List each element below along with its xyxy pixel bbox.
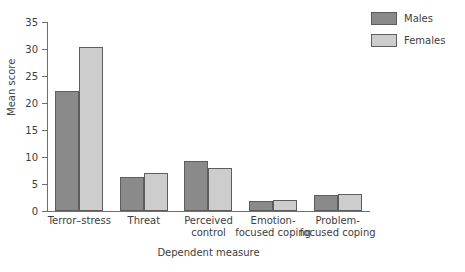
chart-legend: MalesFemales: [371, 12, 459, 56]
legend-item-label: Females: [404, 35, 445, 46]
bar-group-bars: [176, 22, 241, 211]
y-axis-title: Mean score: [6, 59, 17, 116]
bar-females[interactable]: [79, 47, 103, 211]
bar-group: Problem-focused coping: [305, 22, 370, 211]
legend-swatch-icon: [371, 34, 397, 47]
bar-females[interactable]: [208, 168, 232, 211]
bar-group-bars: [241, 22, 306, 211]
y-axis-tick-label: 30: [25, 45, 38, 55]
bar-group: Threat: [112, 22, 177, 211]
bar-females[interactable]: [144, 173, 168, 211]
bar-females[interactable]: [273, 200, 297, 211]
bar-group-bars: [305, 22, 370, 211]
bar-chart-figure: Mean score 05101520253035 Terror–stressT…: [0, 0, 465, 272]
y-axis-tick-label: 0: [32, 207, 38, 217]
y-axis-tick-label: 25: [25, 72, 38, 82]
legend-item[interactable]: Females: [371, 34, 459, 47]
y-axis-tick-label: 5: [32, 180, 38, 190]
y-axis-tick-label: 20: [25, 99, 38, 109]
legend-swatch-icon: [371, 12, 397, 25]
bar-group: Emotion-focused coping: [241, 22, 306, 211]
y-axis-tick-label: 15: [25, 126, 38, 136]
bar-group-bars: [47, 22, 112, 211]
x-axis-category-label-line: control: [184, 227, 233, 239]
x-axis-category-label-line: Problem-: [300, 215, 376, 227]
bar-males[interactable]: [314, 195, 338, 211]
x-axis-category-label: Problem-focused coping: [300, 215, 376, 239]
bar-group: Perceivedcontrol: [176, 22, 241, 211]
legend-item-label: Males: [404, 13, 433, 24]
x-axis-category-label-line: focused coping: [300, 227, 376, 239]
legend-item[interactable]: Males: [371, 12, 459, 25]
bar-males[interactable]: [184, 161, 208, 211]
x-axis-category-label-line: Perceived: [184, 215, 233, 227]
plot-area: 05101520253035 Terror–stressThreatPercei…: [47, 22, 370, 211]
x-axis-category-label: Perceivedcontrol: [184, 215, 233, 239]
bar-females[interactable]: [338, 194, 362, 211]
bar-males[interactable]: [55, 91, 79, 211]
bar-males[interactable]: [120, 177, 144, 211]
x-axis-title: Dependent measure: [47, 247, 370, 258]
x-axis-line: [47, 211, 370, 212]
x-axis-category-label-line: Threat: [128, 215, 161, 227]
bar-group-bars: [112, 22, 177, 211]
bar-group: Terror–stress: [47, 22, 112, 211]
x-axis-category-label-line: Terror–stress: [48, 215, 111, 227]
x-axis-category-label: Threat: [128, 215, 161, 227]
x-axis-category-label: Terror–stress: [48, 215, 111, 227]
y-axis-tick-label: 10: [25, 153, 38, 163]
y-axis-tick: 0: [42, 211, 47, 212]
y-axis-tick-label: 35: [25, 18, 38, 28]
bar-males[interactable]: [249, 201, 273, 211]
